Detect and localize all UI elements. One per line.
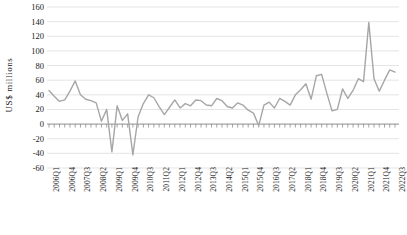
x-axis-tick-label: 2020Q2 xyxy=(351,167,360,192)
x-axis-tick-label: 2006Q4 xyxy=(68,167,77,192)
y-axis-tick-label: 100 xyxy=(31,46,44,56)
x-axis-tick-label: 2021Q1 xyxy=(367,167,376,192)
x-axis-tick-label: 2012Q1 xyxy=(178,167,187,192)
x-axis-tick-label: 2011Q2 xyxy=(162,167,171,192)
y-axis-tick-label: -60 xyxy=(33,163,44,173)
x-axis-tick-label: 2018Q4 xyxy=(319,167,328,192)
y-axis-tick-label: 60 xyxy=(36,75,45,85)
data-series-line xyxy=(49,22,395,154)
x-axis-tick-label: 2015Q1 xyxy=(241,167,250,192)
y-axis-tick-label: 160 xyxy=(31,2,44,12)
y-axis-tick-label: 40 xyxy=(36,90,45,100)
y-axis-tick-label: -20 xyxy=(33,134,44,144)
x-axis-tick-label: 2010Q3 xyxy=(146,167,155,192)
x-axis-tick-label: 2008Q2 xyxy=(99,167,108,192)
line-chart-svg xyxy=(47,0,399,172)
x-axis-tick-label: 2007Q3 xyxy=(83,167,92,192)
x-axis-tick-labels: 2006Q12006Q42007Q32008Q22009Q12009Q42010… xyxy=(47,162,399,235)
x-axis-tick-label: 2009Q4 xyxy=(131,167,140,192)
y-axis-tick-label: 120 xyxy=(31,31,44,41)
x-axis-tick-label: 2013Q3 xyxy=(209,167,218,192)
x-axis-tick-marks xyxy=(49,124,395,128)
y-axis-tick-labels: 160140120100806040200-20-40-60 xyxy=(18,0,46,172)
x-axis-tick-label: 2018Q1 xyxy=(304,167,313,192)
y-axis-title: US$ millions xyxy=(4,58,14,113)
x-axis-tick-label: 2006Q1 xyxy=(52,167,61,192)
y-axis-tick-label: 20 xyxy=(36,104,45,114)
x-axis-tick-label: 2021Q4 xyxy=(382,167,391,192)
x-axis-tick-label: 2014Q2 xyxy=(225,167,234,192)
x-axis-tick-label: 2016Q3 xyxy=(272,167,281,192)
y-axis-tick-label: 0 xyxy=(40,119,44,129)
x-axis-tick-label: 2012Q4 xyxy=(194,167,203,192)
x-axis-tick-label: 2022Q3 xyxy=(398,167,407,192)
x-axis-tick-label: 2009Q1 xyxy=(115,167,124,192)
plot-area xyxy=(47,0,399,172)
x-axis-tick-label: 2015Q4 xyxy=(256,167,265,192)
y-axis-tick-label: 140 xyxy=(31,17,44,27)
y-axis-tick-label: 80 xyxy=(36,61,45,71)
x-axis-tick-label: 2017Q2 xyxy=(288,167,297,192)
y-axis-title-wrap: US$ millions xyxy=(0,0,18,170)
y-axis-tick-label: -40 xyxy=(33,148,44,158)
gridlines xyxy=(47,7,399,168)
x-axis-tick-label: 2019Q3 xyxy=(335,167,344,192)
